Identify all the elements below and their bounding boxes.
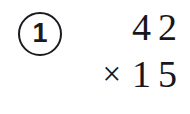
multiplicand-value: 42 — [132, 8, 184, 46]
multiplier-row: × 15 — [57, 55, 177, 102]
worksheet-problem: 1 42 × 15 — [0, 0, 190, 114]
multiplicand-row: 42 — [57, 8, 177, 55]
problem-number-badge: 1 — [18, 12, 62, 56]
multiplication-sign-icon: × — [102, 58, 121, 91]
problem-number-label: 1 — [32, 20, 47, 47]
multiplication-expression: 42 × 15 — [57, 8, 177, 102]
multiplier-value: 15 — [132, 55, 184, 93]
